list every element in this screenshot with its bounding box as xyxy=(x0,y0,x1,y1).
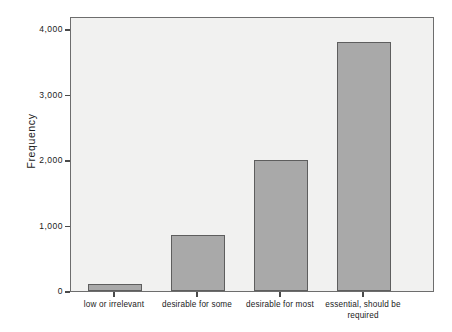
x-tick-mark-3 xyxy=(362,292,364,297)
bar-chart: Frequency 01,0002,0003,0004,000 low or i… xyxy=(0,0,452,332)
bars-layer xyxy=(71,18,433,291)
x-tick-mark-1 xyxy=(196,292,198,297)
y-tick-label-0: 0 xyxy=(5,286,63,296)
x-tick-label-line: essential, should be xyxy=(303,300,423,311)
y-tick-label-3000: 3,000 xyxy=(5,90,63,100)
y-axis-title: Frequency xyxy=(25,86,37,196)
y-tick-label-2000: 2,000 xyxy=(5,155,63,165)
x-tick-mark-2 xyxy=(279,292,281,297)
x-tick-label-line: required xyxy=(303,311,423,322)
bar-0 xyxy=(88,284,142,291)
x-tick-mark-0 xyxy=(113,292,115,297)
bar-3 xyxy=(337,42,391,291)
x-tick-label-3: essential, should berequired xyxy=(303,300,423,321)
plot-area xyxy=(70,17,434,292)
y-tick-label-4000: 4,000 xyxy=(5,24,63,34)
bar-2 xyxy=(254,160,308,291)
y-tick-label-1000: 1,000 xyxy=(5,221,63,231)
bar-1 xyxy=(171,235,225,291)
